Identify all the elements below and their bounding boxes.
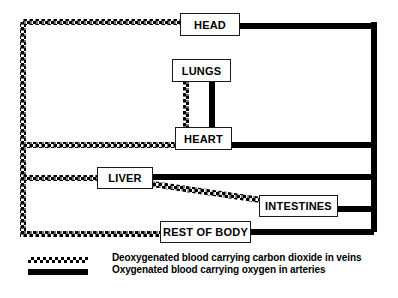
organ-label: INTESTINES xyxy=(265,200,332,212)
organ-box-heart: HEART xyxy=(175,127,232,150)
organ-box-intestines: INTESTINES xyxy=(259,195,338,217)
legend-swatch-artery xyxy=(28,269,88,275)
organ-box-head: HEAD xyxy=(180,13,240,36)
legend-label-vein: Deoxygenated blood carrying carbon dioxi… xyxy=(112,252,361,263)
organ-box-liver: LIVER xyxy=(97,167,153,189)
organ-box-rest_of_body: REST OF BODY xyxy=(160,221,251,243)
circulation-diagram: HEADLUNGSHEARTLIVERINTESTINESREST OF BOD… xyxy=(0,0,398,298)
organ-label: LIVER xyxy=(108,172,141,184)
organ-label: LUNGS xyxy=(182,65,222,77)
organ-label: REST OF BODY xyxy=(163,226,248,238)
legend-swatch-vein xyxy=(28,257,88,263)
organ-box-lungs: LUNGS xyxy=(172,59,231,82)
organ-label: HEAD xyxy=(194,19,226,31)
legend-label-artery: Oxygenated blood carrying oxygen in arte… xyxy=(112,264,325,275)
organ-label: HEART xyxy=(184,133,223,145)
